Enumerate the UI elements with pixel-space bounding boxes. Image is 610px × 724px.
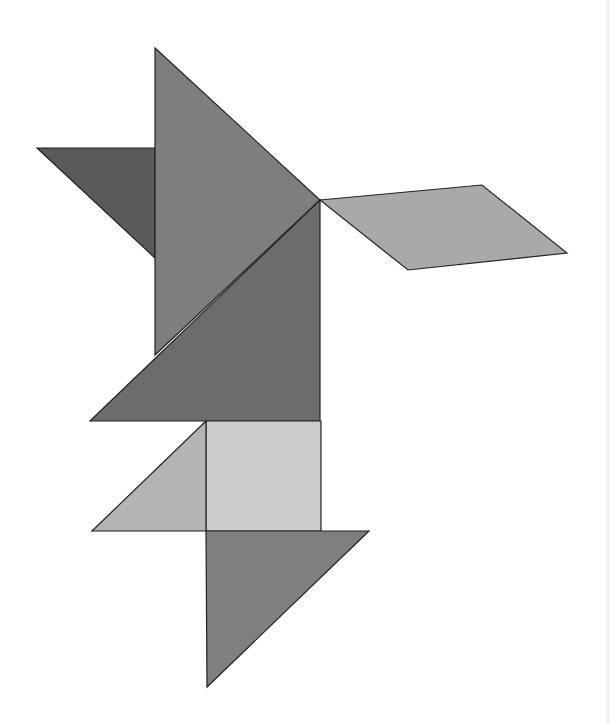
tangram-piece-dark-small-triangle: [37, 148, 155, 258]
tangram-figure: [0, 0, 610, 724]
tangram-piece-small-triangle-left: [92, 421, 206, 531]
page-edge: [606, 0, 610, 724]
tangram-piece-medium-triangle-bottom: [206, 531, 369, 687]
tangram-piece-parallelogram: [320, 185, 567, 270]
tangram-piece-square: [206, 421, 321, 531]
